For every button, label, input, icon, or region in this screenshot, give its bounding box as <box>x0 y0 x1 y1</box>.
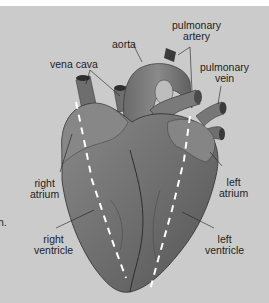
label-right-atrium: right atrium <box>30 178 59 200</box>
label-vena-cava: vena cava <box>50 59 98 70</box>
label-left-atrium-line2: atrium <box>219 188 248 199</box>
label-pulmonary-artery-line2: artery <box>172 31 221 42</box>
label-left-ventricle: left ventricle <box>205 234 244 256</box>
leader-pulmonary-vein <box>218 86 221 104</box>
label-right-ventricle: right ventricle <box>34 234 73 256</box>
edge-text-fragment: n. <box>0 217 7 228</box>
label-aorta: aorta <box>112 39 136 50</box>
label-pulmonary-vein-line2: vein <box>200 73 249 84</box>
label-pulmonary-artery: pulmonary artery <box>172 20 221 42</box>
label-pulmonary-vein: pulmonary vein <box>200 62 249 84</box>
label-right-ventricle-line2: ventricle <box>34 245 73 256</box>
label-right-atrium-line2: atrium <box>30 189 59 200</box>
label-left-atrium: left atrium <box>219 177 248 199</box>
label-left-ventricle-line2: ventricle <box>205 245 244 256</box>
